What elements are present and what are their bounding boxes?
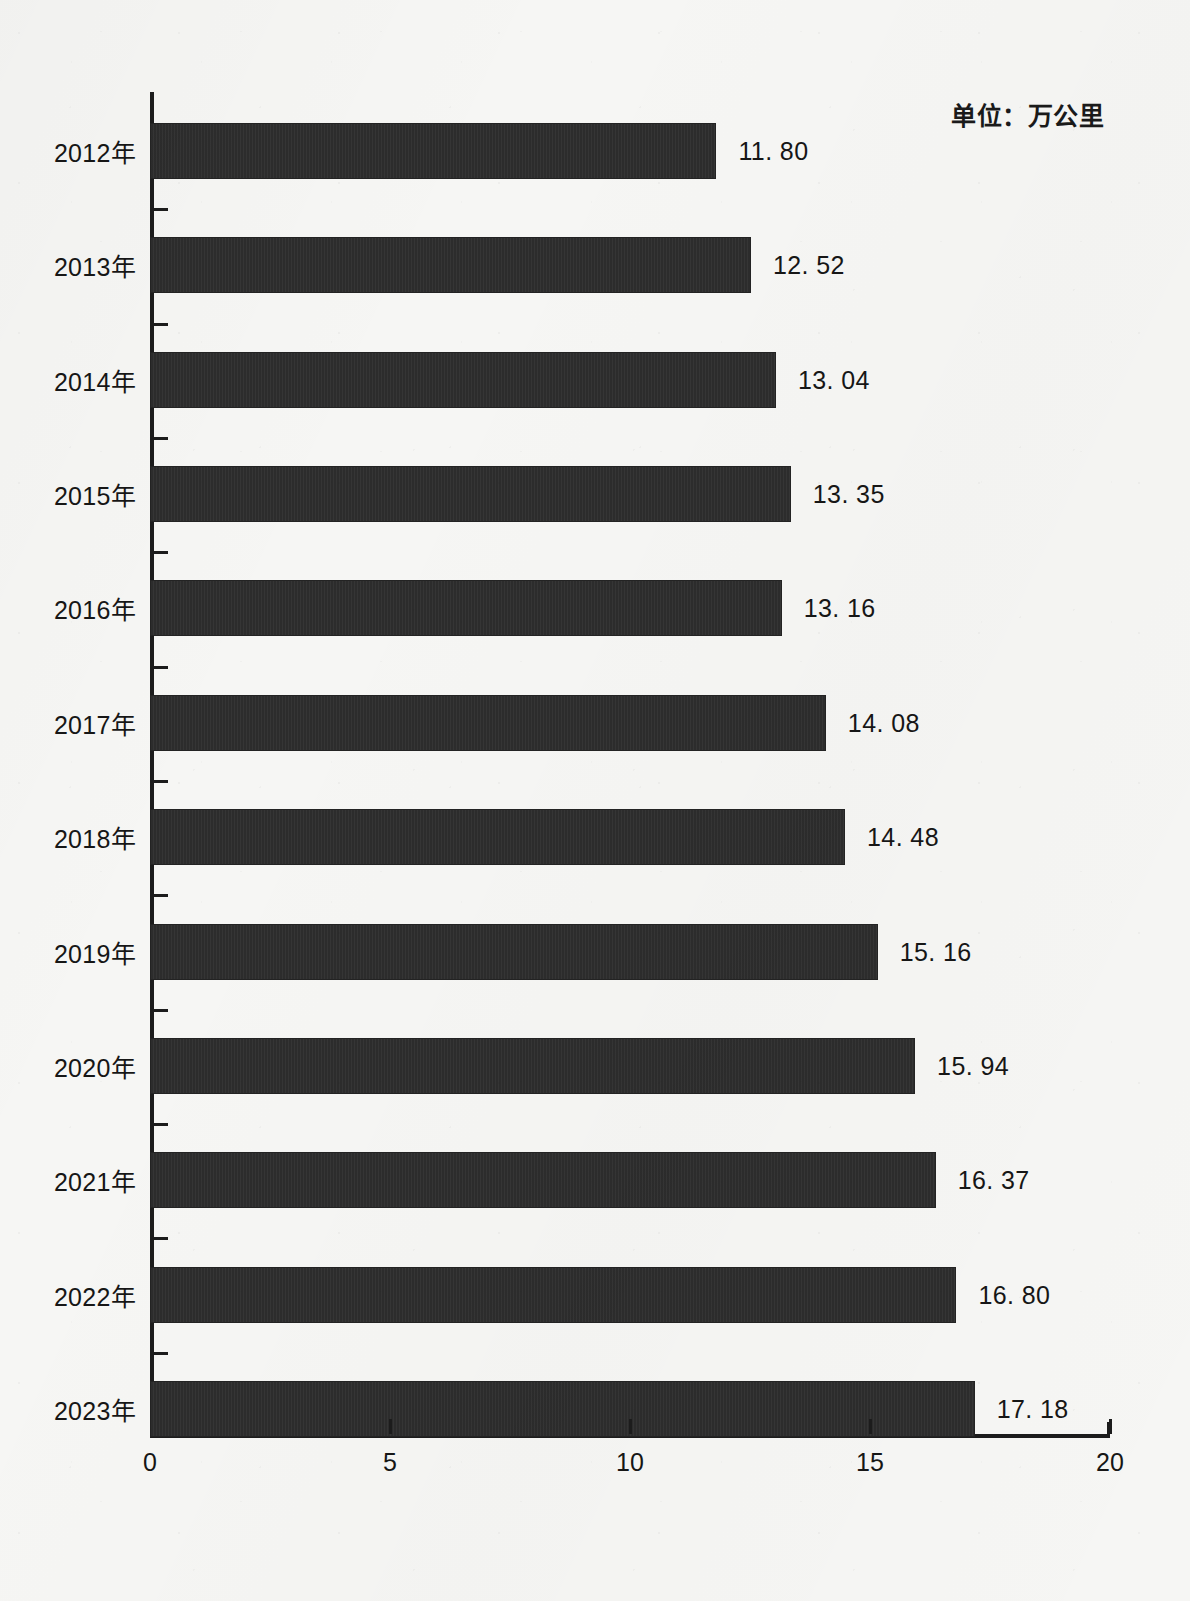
bar-value-label: 15. 94 [937,1051,1009,1080]
category-label-2019年: 2019年 [8,934,136,970]
bar-row: 13. 162016年 [150,580,1110,636]
category-label-2012年: 2012年 [8,133,136,169]
bar-value-label: 16. 80 [978,1280,1050,1309]
bar-value-label: 16. 37 [958,1166,1030,1195]
y-axis-tick [154,551,168,554]
y-axis-tick [154,1352,168,1355]
bar-value-label: 12. 52 [773,251,845,280]
bar-value-label: 13. 04 [798,365,870,394]
y-axis-tick [154,437,168,440]
x-axis-label-15: 15 [856,1448,884,1477]
category-label-2023年: 2023年 [8,1391,136,1427]
y-axis-tick [154,1237,168,1240]
y-axis-tick [154,323,168,326]
y-axis-tick [154,1123,168,1126]
x-axis-tick [869,1419,872,1434]
category-label-2015年: 2015年 [8,476,136,512]
plot-area: 11. 802012年12. 522013年13. 042014年13. 352… [150,92,1110,1438]
category-label-2018年: 2018年 [8,819,136,855]
chart-page: 单位：万公里 11. 802012年12. 522013年13. 042014年… [0,0,1190,1601]
bar-value-label: 13. 16 [804,594,876,623]
bar-value-label: 14. 08 [848,708,920,737]
bar-row: 15. 942020年 [150,1038,1110,1094]
bar-2014年 [150,352,776,408]
category-label-2021年: 2021年 [8,1162,136,1198]
bar-row: 14. 082017年 [150,695,1110,751]
bar-2017年 [150,695,826,751]
bar-row: 12. 522013年 [150,237,1110,293]
y-axis-tick [154,780,168,783]
x-axis-tick [1109,1419,1112,1434]
bar-value-label: 13. 35 [813,480,885,509]
bar-2018年 [150,809,845,865]
bar-value-label: 14. 48 [867,823,939,852]
bar-row: 16. 372021年 [150,1152,1110,1208]
x-axis-tick [389,1419,392,1434]
unit-caption: 单位：万公里 [0,96,1104,132]
bar-2020年 [150,1038,915,1094]
bar-2015年 [150,466,791,522]
bar-value-label: 11. 80 [738,137,808,166]
x-axis-tick [629,1419,632,1434]
y-axis-line [150,92,154,1438]
category-label-2013年: 2013年 [8,247,136,283]
category-label-2014年: 2014年 [8,362,136,398]
y-axis-tick [154,1009,168,1012]
category-label-2017年: 2017年 [8,705,136,741]
y-axis-tick [154,894,168,897]
category-label-2020年: 2020年 [8,1048,136,1084]
bar-2021年 [150,1152,936,1208]
bar-2023年 [150,1381,975,1437]
x-axis-label-20: 20 [1096,1448,1124,1477]
bar-2016年 [150,580,782,636]
x-axis-label-5: 5 [383,1448,397,1477]
bar-2013年 [150,237,751,293]
bar-row: 13. 042014年 [150,352,1110,408]
bar-row: 15. 162019年 [150,924,1110,980]
bar-2022年 [150,1267,956,1323]
bar-row: 13. 352015年 [150,466,1110,522]
y-axis-tick [154,208,168,211]
bar-row: 16. 802022年 [150,1267,1110,1323]
bar-2019年 [150,924,878,980]
y-axis-tick [154,666,168,669]
category-label-2022年: 2022年 [8,1277,136,1313]
x-axis-label-10: 10 [616,1448,644,1477]
bar-value-label: 15. 16 [900,937,972,966]
category-label-2016年: 2016年 [8,590,136,626]
bar-row: 14. 482018年 [150,809,1110,865]
bar-value-label: 17. 18 [997,1395,1069,1424]
x-axis-label-0: 0 [143,1448,157,1477]
